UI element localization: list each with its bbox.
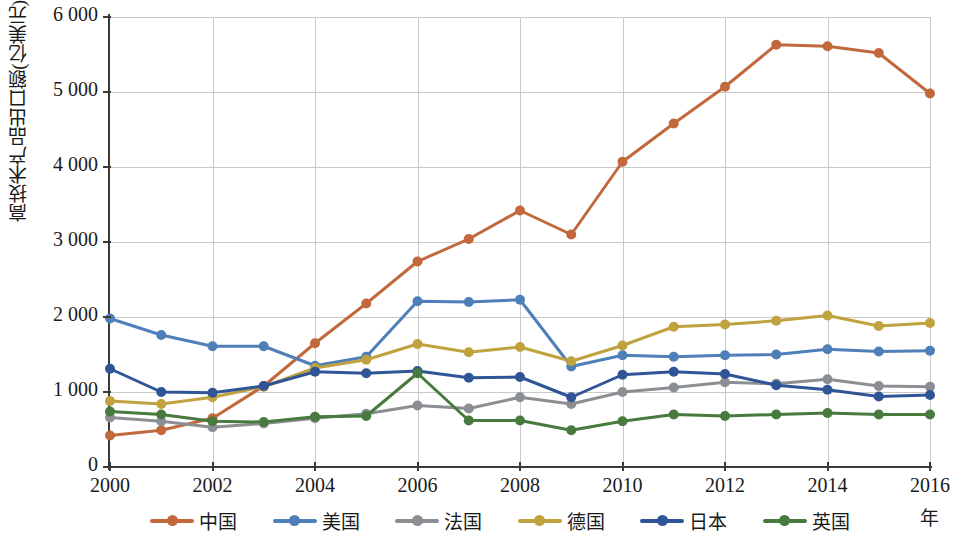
data-point [208, 341, 218, 351]
chart-figure: 高技术产品出口额(亿美元) 01 0002 0003 0004 0005 000… [0, 0, 958, 535]
data-point [361, 299, 371, 309]
x-tick [519, 462, 521, 471]
data-point [361, 355, 371, 365]
legend-item-3[interactable]: 德国 [518, 507, 605, 534]
data-point [105, 364, 115, 374]
data-point [874, 48, 884, 58]
data-point [413, 368, 423, 378]
legend-item-5[interactable]: 英国 [763, 507, 850, 534]
data-point [823, 385, 833, 395]
data-point [618, 370, 628, 380]
data-point [720, 369, 730, 379]
data-point [669, 352, 679, 362]
legend-label: 法国 [444, 507, 482, 534]
y-tick [103, 391, 111, 393]
data-point [823, 311, 833, 321]
y-tick [103, 91, 111, 93]
legend-marker-dot [657, 515, 668, 526]
x-tick-label: 2016 [885, 474, 958, 497]
data-point [771, 380, 781, 390]
x-tick [622, 462, 624, 471]
line-marker-icon [150, 513, 194, 527]
plot-area [110, 17, 930, 467]
legend-item-4[interactable]: 日本 [640, 507, 727, 534]
data-point [720, 82, 730, 92]
data-point [208, 388, 218, 398]
data-point [874, 347, 884, 357]
data-point [823, 408, 833, 418]
data-point [310, 367, 320, 377]
data-point [720, 320, 730, 330]
data-point [413, 257, 423, 267]
legend-item-2[interactable]: 法国 [395, 507, 482, 534]
x-tick [827, 462, 829, 471]
data-point [515, 206, 525, 216]
data-point [874, 392, 884, 402]
x-axis-unit-label: 年 [920, 503, 939, 530]
data-point [874, 321, 884, 331]
data-point [669, 322, 679, 332]
y-axis-title-text: 高技术产品出口额(亿美元) [2, 0, 36, 222]
data-point [464, 347, 474, 357]
line-marker-icon [640, 513, 684, 527]
data-point [874, 410, 884, 420]
data-point [105, 407, 115, 417]
data-point [618, 341, 628, 351]
y-axis-title: 高技术产品出口额(亿美元) [2, 0, 36, 300]
y-tick-label: 3 000 [53, 228, 98, 251]
x-tick [109, 462, 111, 471]
data-point [310, 338, 320, 348]
x-tick [417, 462, 419, 471]
legend-marker-dot [534, 515, 545, 526]
data-point [105, 314, 115, 324]
chart-legend: 中国美国法国德国日本英国 [150, 508, 850, 532]
data-point [925, 390, 935, 400]
data-point [669, 367, 679, 377]
data-point [515, 416, 525, 426]
data-point [464, 297, 474, 307]
data-point [515, 372, 525, 382]
y-tick [103, 16, 111, 18]
y-tick [103, 241, 111, 243]
legend-label: 英国 [812, 507, 850, 534]
data-point [771, 316, 781, 326]
legend-label: 德国 [567, 507, 605, 534]
data-point [566, 356, 576, 366]
x-tick-label: 2000 [65, 474, 155, 497]
data-point [413, 401, 423, 411]
x-tick [212, 462, 214, 471]
x-tick-label: 2002 [168, 474, 258, 497]
data-point [310, 412, 320, 422]
data-point [618, 350, 628, 360]
x-tick-label: 2012 [680, 474, 770, 497]
y-tick-label: 1 000 [53, 378, 98, 401]
series-1 [105, 295, 935, 372]
data-point [669, 410, 679, 420]
data-point [464, 234, 474, 244]
x-tick-label: 2010 [578, 474, 668, 497]
data-point [156, 399, 166, 409]
x-tick [929, 462, 931, 471]
data-point [259, 381, 269, 391]
data-point [156, 425, 166, 435]
x-tick [724, 462, 726, 471]
legend-label: 美国 [322, 507, 360, 534]
data-point [208, 416, 218, 426]
y-tick-label: 4 000 [53, 153, 98, 176]
data-point [925, 410, 935, 420]
data-point [156, 330, 166, 340]
x-tick-label: 2006 [373, 474, 463, 497]
legend-item-0[interactable]: 中国 [150, 507, 237, 534]
series-line [110, 300, 930, 367]
data-point [566, 425, 576, 435]
legend-marker-dot [167, 515, 178, 526]
data-point [156, 387, 166, 397]
data-point [618, 387, 628, 397]
legend-item-1[interactable]: 美国 [273, 507, 360, 534]
data-point [720, 350, 730, 360]
line-marker-icon [518, 513, 562, 527]
data-point [771, 410, 781, 420]
data-point [925, 89, 935, 99]
y-tick-label: 6 000 [53, 3, 98, 26]
data-point [361, 368, 371, 378]
